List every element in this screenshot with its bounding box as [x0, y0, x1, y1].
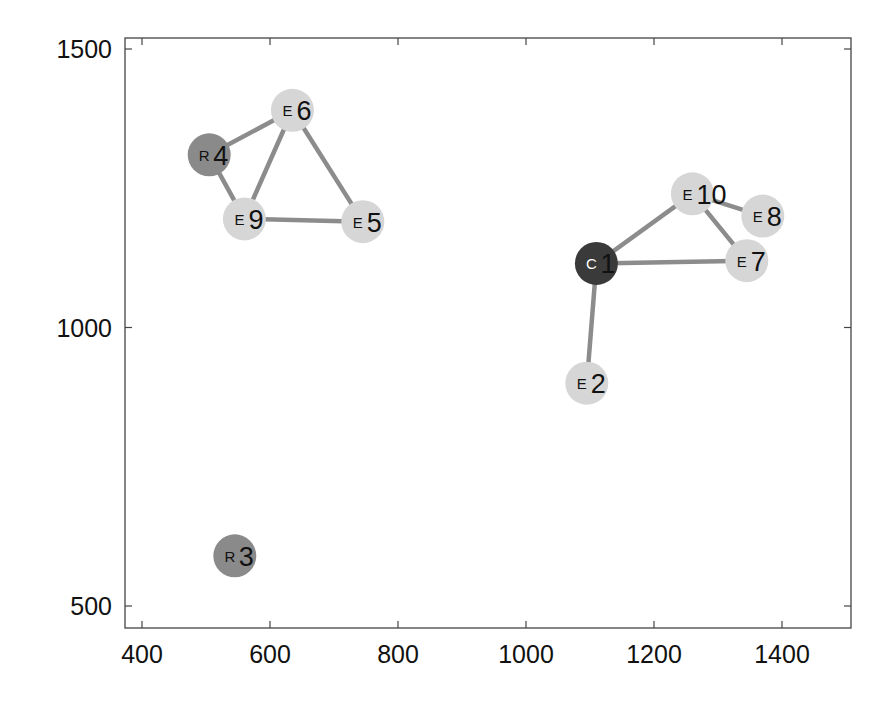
edge-1-7: [596, 261, 746, 264]
node-id-label: 6: [296, 96, 311, 126]
node-id-label: 10: [696, 180, 726, 210]
node-id-label: 5: [367, 208, 382, 238]
node-7: E7: [725, 239, 768, 282]
x-tick-label: 1000: [498, 640, 554, 668]
node-id-label: 1: [600, 249, 615, 279]
node-type-label: E: [737, 253, 747, 270]
node-type-label: E: [577, 375, 587, 392]
node-5: E5: [341, 200, 384, 243]
node-type-label: R: [199, 147, 210, 164]
y-axis: 50010001500: [56, 35, 851, 620]
node-8: E8: [741, 195, 784, 238]
node-id-label: 4: [213, 141, 228, 171]
y-tick-label: 500: [70, 592, 112, 620]
node-9: E9: [223, 197, 266, 240]
node-6: E6: [271, 89, 314, 132]
node-id-label: 2: [591, 369, 606, 399]
x-tick-label: 400: [121, 640, 163, 668]
edges-layer: [209, 110, 763, 383]
node-id-label: 9: [248, 205, 263, 235]
y-tick-label: 1000: [56, 314, 112, 342]
node-id-label: 3: [239, 542, 254, 572]
x-tick-label: 800: [377, 640, 419, 668]
node-type-label: E: [753, 208, 763, 225]
x-tick-label: 1200: [626, 640, 682, 668]
node-1: C1: [575, 242, 618, 285]
node-id-label: 7: [751, 247, 766, 277]
node-type-label: E: [682, 186, 692, 203]
node-3: R3: [213, 534, 256, 577]
y-tick-label: 1500: [56, 35, 112, 63]
network-chart: C1E2R3R4E5E6E7E8E9E10 400600800100012001…: [0, 0, 889, 709]
node-4: R4: [188, 133, 231, 176]
node-10: E10: [671, 172, 727, 215]
node-type-label: R: [224, 548, 235, 565]
nodes-layer: C1E2R3R4E5E6E7E8E9E10: [188, 89, 785, 578]
node-type-label: E: [353, 214, 363, 231]
node-2: E2: [565, 362, 608, 405]
node-id-label: 8: [767, 202, 782, 232]
x-tick-label: 600: [249, 640, 291, 668]
x-tick-label: 1400: [754, 640, 810, 668]
node-type-label: C: [586, 255, 597, 272]
node-type-label: E: [282, 102, 292, 119]
node-type-label: E: [234, 211, 244, 228]
